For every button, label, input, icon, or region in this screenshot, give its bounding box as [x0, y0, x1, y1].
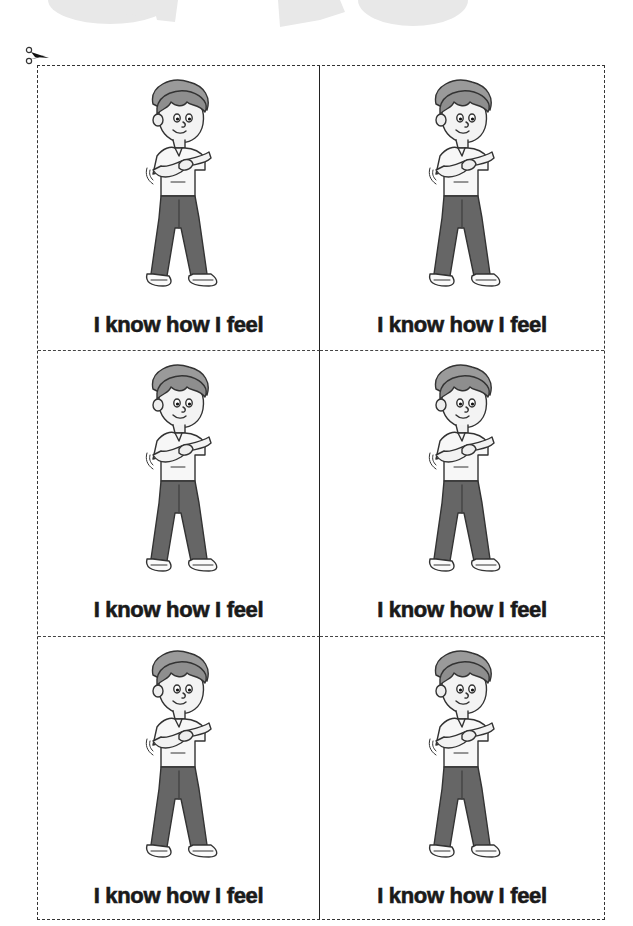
card-5: I know how I feel: [38, 637, 320, 919]
boy-illustration: [402, 363, 522, 583]
boy-illustration: [119, 649, 239, 869]
card-caption: I know how I feel: [320, 883, 604, 909]
card-sheet: I know how I feel: [37, 65, 605, 920]
card-6: I know how I feel: [320, 637, 604, 919]
card-caption: I know how I feel: [320, 597, 604, 623]
card-3: I know how I feel: [38, 351, 320, 637]
card-caption: I know how I feel: [38, 312, 319, 338]
boy-illustration: [402, 78, 522, 298]
card-2: I know how I feel: [320, 66, 604, 351]
card-4: I know how I feel: [320, 351, 604, 637]
scissors-icon: [23, 46, 51, 66]
watermark: [0, 0, 633, 40]
boy-illustration: [402, 649, 522, 869]
card-caption: I know how I feel: [320, 312, 604, 338]
card-1: I know how I feel: [38, 66, 320, 351]
boy-illustration: [119, 363, 239, 583]
boy-illustration: [119, 78, 239, 298]
card-caption: I know how I feel: [38, 883, 319, 909]
card-caption: I know how I feel: [38, 597, 319, 623]
